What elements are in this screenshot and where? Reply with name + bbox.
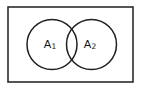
venn-diagram-figure: A1 A2 [0,0,141,90]
set-label-a2-subscript: 2 [91,42,96,51]
venn-diagram-canvas: A1 A2 [0,0,141,90]
set-label-a1-subscript: 1 [51,42,56,51]
